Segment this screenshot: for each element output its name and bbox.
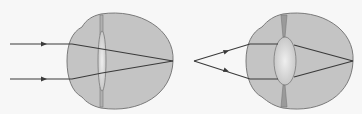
lens-thin [98, 31, 106, 91]
eyeball-left [67, 13, 173, 109]
panel-near-object [194, 13, 353, 109]
arrow-icon [223, 68, 229, 73]
arrow-icon [41, 42, 47, 47]
arrow-icon [223, 50, 229, 55]
panel-distant-object [10, 13, 173, 109]
eye-accommodation-diagram [0, 0, 362, 114]
arrow-icon [41, 77, 47, 82]
eyeball-right [246, 13, 353, 109]
